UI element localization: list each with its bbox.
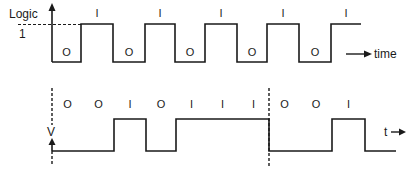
- top-bit-label: I: [344, 8, 347, 19]
- logic-level-1-label: 1: [19, 28, 26, 40]
- top-bit-label: I: [95, 8, 98, 19]
- time-arrow-icon: [364, 51, 372, 58]
- bottom-bit-label: I: [252, 99, 255, 110]
- top-y-axis-label: Logic: [9, 8, 38, 20]
- top-bit-label: O: [186, 47, 195, 58]
- top-bit-label: O: [125, 47, 134, 58]
- bottom-bit-label: O: [63, 99, 72, 110]
- t-arrow-icon: [399, 129, 406, 136]
- bottom-bit-label: O: [157, 99, 166, 110]
- bottom-square-wave: [52, 119, 396, 151]
- bottom-x-axis-label: t: [384, 126, 387, 138]
- bottom-y-axis-label: V: [47, 126, 55, 138]
- bottom-bit-label: O: [94, 99, 103, 110]
- bottom-bit-label: O: [280, 99, 289, 110]
- logic-waveform-diagram: [0, 0, 409, 175]
- bottom-bit-label: I: [190, 99, 193, 110]
- bottom-bit-label: I: [128, 99, 131, 110]
- bottom-bit-label: I: [347, 99, 350, 110]
- bottom-bit-label: O: [312, 99, 321, 110]
- bottom-bit-label: I: [221, 99, 224, 110]
- top-bit-label: O: [248, 47, 257, 58]
- v-axis-arrow-icon: [49, 138, 56, 145]
- top-bit-label: I: [158, 8, 161, 19]
- top-bit-label: I: [281, 8, 284, 19]
- top-y-axis-arrow-icon: [49, 3, 56, 11]
- top-bit-label: I: [219, 8, 222, 19]
- top-bit-label: O: [311, 47, 320, 58]
- top-x-axis-label: time: [374, 48, 397, 60]
- top-bit-label: O: [62, 47, 71, 58]
